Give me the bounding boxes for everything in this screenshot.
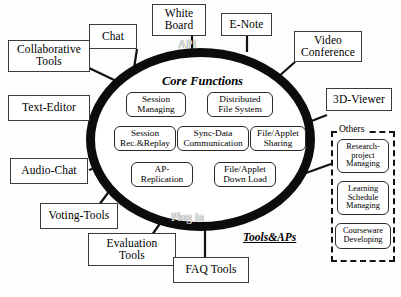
node-audio-chat-label: Audio-Chat	[19, 165, 78, 177]
node-text-editor[interactable]: Text-Editor	[8, 95, 90, 121]
function-file-applet-download-label: File/AppletDown Load	[223, 165, 267, 184]
node-3d-viewer-label: 3D-Viewer	[331, 94, 387, 106]
core-functions-title: Core Functions	[140, 74, 265, 89]
node-faq-tools[interactable]: FAQ Tools	[173, 257, 249, 283]
node-evaluation-tools[interactable]: EvaluationTools	[88, 233, 176, 266]
node-collaborative-tools[interactable]: CollaborativeTools	[8, 40, 90, 72]
node-white-board[interactable]: WhiteBoard	[152, 4, 206, 36]
function-distributed-file-system[interactable]: DistributedFile System	[207, 92, 273, 117]
node-video-conference[interactable]: VideoConference	[294, 31, 362, 62]
others-item-courseware-developing-label: CoursewareDeveloping	[343, 227, 383, 244]
function-session-managing[interactable]: SessionManaging	[126, 92, 186, 117]
function-ap-replication[interactable]: AP-Replication	[131, 162, 193, 187]
node-faq-tools-label: FAQ Tools	[183, 264, 238, 276]
function-sync-data-communication-label: Sync-DataCommunication	[183, 129, 242, 148]
node-3d-viewer[interactable]: 3D-Viewer	[326, 88, 392, 111]
others-item-research-project-managing[interactable]: Research-projectManaging	[337, 139, 389, 173]
function-sync-data-communication[interactable]: Sync-DataCommunication	[177, 126, 249, 151]
node-evaluation-tools-label: EvaluationTools	[105, 238, 160, 262]
function-file-applet-sharing[interactable]: File/AppletSharing	[250, 126, 306, 151]
others-item-research-project-managing-label: Research-projectManaging	[346, 143, 380, 169]
node-white-board-label: WhiteBoard	[163, 8, 196, 32]
others-item-learning-schedule-managing[interactable]: LearningScheduleManaging	[337, 181, 389, 215]
node-e-note-label: E-Note	[228, 19, 266, 31]
function-file-applet-sharing-label: File/AppletSharing	[257, 129, 299, 148]
function-ap-replication-label: AP-Replication	[141, 165, 183, 184]
tools-and-aps-label: Tools&APs	[243, 231, 296, 243]
node-voting-tools-label: Voting-Tools	[47, 210, 112, 222]
others-item-courseware-developing[interactable]: CoursewareDeveloping	[335, 223, 391, 249]
node-voting-tools[interactable]: Voting-Tools	[40, 203, 118, 229]
function-file-applet-download[interactable]: File/AppletDown Load	[214, 162, 276, 187]
others-group-label: Others	[337, 124, 366, 134]
api-band-label: API	[178, 38, 197, 50]
function-distributed-file-system-label: DistributedFile System	[218, 95, 262, 114]
others-item-learning-schedule-managing-label: LearningScheduleManaging	[346, 185, 380, 211]
node-audio-chat[interactable]: Audio-Chat	[10, 158, 88, 184]
node-video-conference-label: VideoConference	[299, 35, 357, 59]
node-collaborative-tools-label: CollaborativeTools	[15, 44, 83, 68]
node-text-editor-label: Text-Editor	[20, 102, 78, 114]
node-chat[interactable]: Chat	[89, 24, 137, 49]
function-session-rec-replay[interactable]: SessionRec.&Replay	[114, 126, 176, 151]
plug-in-band-label: Plug in	[171, 211, 204, 223]
function-session-managing-label: SessionManaging	[137, 95, 174, 114]
function-session-rec-replay-label: SessionRec.&Replay	[120, 129, 170, 148]
node-chat-label: Chat	[100, 31, 126, 43]
diagram-canvas: API Plug in Core Functions SessionManagi…	[0, 0, 401, 297]
node-e-note[interactable]: E-Note	[221, 13, 272, 36]
